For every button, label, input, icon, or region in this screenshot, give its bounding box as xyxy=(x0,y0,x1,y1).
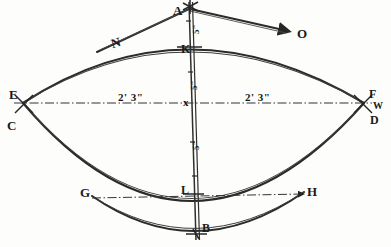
point-label-d: D xyxy=(370,114,379,126)
point-label-b: B xyxy=(202,222,210,234)
upper-lens-arc xyxy=(23,50,364,104)
point-label-a: A xyxy=(173,4,183,17)
point-label-k: K xyxy=(181,43,191,55)
dimension-a-to-k: 5" xyxy=(192,25,201,35)
point-label-e: E xyxy=(9,88,18,101)
dimension-k-to-x: 5" xyxy=(190,81,199,91)
point-label-c: C xyxy=(7,119,17,132)
point-label-h: H xyxy=(307,185,317,198)
point-label-f: F xyxy=(369,88,377,100)
point-label-o: O xyxy=(297,27,307,40)
dimension-right-half-span: 2' 3" xyxy=(245,92,270,103)
point-label-l: L xyxy=(181,184,189,196)
diagram-canvas xyxy=(0,0,391,247)
point-label-x-center: x xyxy=(183,97,189,108)
point-label-w: W xyxy=(373,101,383,111)
central-vertical-axis xyxy=(189,2,200,240)
geometric-construction-diagram: A N O K E C F W D x L G H B 2' 3" 2' 3" … xyxy=(0,0,391,247)
dimension-left-half-span: 2' 3" xyxy=(118,92,143,103)
point-label-g: G xyxy=(80,186,90,199)
dimension-x-to-l: 5" xyxy=(192,141,201,151)
